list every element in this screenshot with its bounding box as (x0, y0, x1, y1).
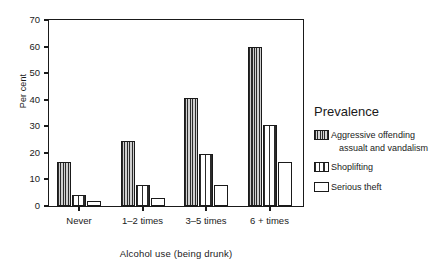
x-axis-tick-label: 6 + times (250, 215, 289, 226)
bar (199, 154, 213, 206)
bar (136, 185, 150, 206)
chart-figure: Per cent 010203040506070 Never1–2 times3… (0, 0, 447, 280)
x-axis-tick-mark (78, 207, 80, 211)
bar (121, 141, 135, 206)
x-axis-tick-mark (142, 207, 144, 211)
y-axis-tick-label: 70 (29, 14, 40, 26)
legend-swatch (314, 182, 329, 192)
y-axis-tick-label: 50 (29, 67, 40, 79)
legend-items: Aggressive offendingassualt and vandalis… (314, 129, 447, 193)
bar (184, 98, 198, 206)
legend-title: Prevalence (314, 104, 447, 120)
bar (72, 195, 86, 206)
legend-label: Serious theft (331, 181, 447, 194)
bar (87, 201, 101, 206)
bar (214, 185, 228, 206)
y-axis-tick-label: 30 (29, 120, 40, 132)
legend-swatch (314, 162, 329, 172)
y-axis-tick-label: 60 (29, 41, 40, 53)
x-axis-title: Alcohol use (being drunk) (49, 248, 303, 259)
x-axis-tick-mark (205, 207, 207, 211)
bar (278, 162, 292, 206)
legend-label-line2: assualt and vandalism (339, 142, 447, 155)
x-axis-tick-mark (269, 207, 271, 211)
y-axis-tick-label: 40 (29, 94, 40, 106)
y-axis-tick-label: 0 (35, 200, 40, 212)
legend-swatch (314, 130, 329, 140)
bar-group (184, 20, 228, 206)
bar (248, 47, 262, 206)
bar-group (57, 20, 101, 206)
legend-item: Aggressive offendingassualt and vandalis… (314, 129, 447, 154)
y-axis-tick-label: 10 (29, 173, 40, 185)
y-axis-tick-label: 20 (29, 147, 40, 159)
bar-group (121, 20, 165, 206)
x-axis-tick-label: 3–5 times (185, 215, 226, 226)
chart-legend: Prevalence Aggressive offendingassualt a… (314, 104, 447, 200)
x-axis-ticks: Never1–2 times3–5 times6 + times (49, 207, 303, 235)
bar (151, 198, 165, 206)
legend-item: Shoplifting (314, 161, 447, 174)
legend-label: Aggressive offendingassualt and vandalis… (331, 129, 447, 154)
bar (263, 125, 277, 206)
y-axis-ticks: 010203040506070 (0, 19, 48, 207)
x-axis-tick-label: Never (66, 215, 91, 226)
bar-group (248, 20, 292, 206)
bars-layer (49, 20, 303, 206)
legend-label: Shoplifting (331, 161, 447, 174)
bar (57, 162, 71, 206)
x-axis-tick-label: 1–2 times (122, 215, 163, 226)
legend-item: Serious theft (314, 181, 447, 194)
